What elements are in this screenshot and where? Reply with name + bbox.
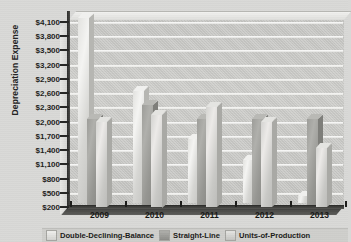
- plot-area: [68, 11, 343, 207]
- y-axis-tick: [60, 206, 69, 208]
- bar-side-face: [327, 144, 332, 207]
- y-axis-tick-label: $3,800: [2, 32, 60, 41]
- y-axis-tick-label: $2,000: [2, 117, 60, 126]
- y-axis-tick: [60, 21, 69, 23]
- legend-swatch-icon: [225, 230, 236, 241]
- y-axis-tick-label: $2,900: [2, 74, 60, 83]
- x-axis-tick: [125, 201, 127, 207]
- bar-side-face: [162, 110, 167, 207]
- y-axis-tick-label: $1,400: [2, 146, 60, 155]
- legend-swatch-icon: [46, 230, 57, 241]
- y-axis-tick-label: $1,700: [2, 131, 60, 140]
- y-axis-tick: [60, 78, 69, 80]
- y-axis-tick-label: $3,500: [2, 46, 60, 55]
- y-axis-tick-label: $4,100: [2, 18, 60, 27]
- bar-face: [261, 122, 272, 207]
- x-axis-tick: [345, 201, 347, 207]
- y-axis-tick: [60, 92, 69, 94]
- x-axis-tick-labels: 20092010201120122013: [0, 210, 348, 224]
- bar-face: [206, 107, 217, 207]
- x-axis-tick: [180, 201, 182, 207]
- legend-item[interactable]: Units-of-Production: [225, 230, 310, 241]
- x-axis-tick: [235, 201, 237, 207]
- y-axis-tick: [60, 178, 69, 180]
- bar-side-face: [107, 117, 112, 207]
- y-axis-tick-label: $2,600: [2, 89, 60, 98]
- x-axis-tick: [290, 201, 292, 207]
- legend-item-label: Units-of-Production: [239, 231, 310, 240]
- y-axis-tick: [60, 121, 69, 123]
- y-axis-tick: [60, 192, 69, 194]
- bar-side-face: [272, 117, 277, 207]
- y-axis-tick: [60, 135, 69, 137]
- y-axis-tick: [60, 106, 69, 108]
- bar-face: [151, 115, 162, 208]
- y-axis-tick-label: $800: [2, 174, 60, 183]
- legend-item-label: Straight-Line: [173, 231, 220, 240]
- y-axis-tick: [60, 163, 69, 165]
- legend-item-label: Double-Declining-Balance: [60, 231, 154, 240]
- bar: [96, 122, 107, 207]
- y-axis-tick-label: $3,200: [2, 60, 60, 69]
- y-axis-tick-label: $500: [2, 188, 60, 197]
- y-axis-tick: [60, 49, 69, 51]
- x-axis-tick-label: 2012: [255, 210, 274, 220]
- y-axis-tick: [60, 149, 69, 151]
- bar-face: [96, 122, 107, 207]
- legend-swatch-icon: [159, 230, 170, 241]
- x-axis-tick-label: 2011: [200, 210, 218, 220]
- y-axis-tick-labels: $4,100$3,800$3,500$3,200$2,900$2,600$2,3…: [0, 0, 60, 242]
- bar: [151, 115, 162, 208]
- x-axis-tick-label: 2009: [90, 210, 109, 220]
- y-axis-tick-label: $2,300: [2, 103, 60, 112]
- legend-item[interactable]: Straight-Line: [159, 230, 220, 241]
- chart-legend: Double-Declining-BalanceStraight-LineUni…: [42, 228, 348, 242]
- bar: [316, 148, 327, 207]
- bar: [261, 122, 272, 207]
- y-axis-tick: [60, 64, 69, 66]
- x-axis-tick: [70, 201, 72, 207]
- y-axis-tick-label: $1,100: [2, 160, 60, 169]
- bar-face: [316, 148, 327, 207]
- bar-series-group: [68, 11, 343, 207]
- bar: [206, 107, 217, 207]
- legend-item[interactable]: Double-Declining-Balance: [46, 230, 154, 241]
- x-axis-tick-label: 2010: [145, 210, 164, 220]
- y-axis-tick: [60, 35, 69, 37]
- bar-side-face: [217, 103, 222, 207]
- x-axis-tick-label: 2013: [310, 210, 329, 220]
